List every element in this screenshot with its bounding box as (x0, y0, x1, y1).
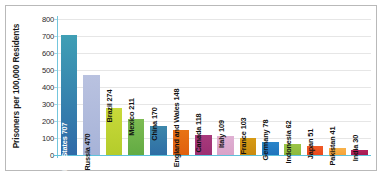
bar[interactable]: Canada 118 (195, 135, 212, 155)
bar-slot[interactable]: China 170 (147, 19, 169, 155)
plot-area: 8007006005004003002001000 United States … (58, 19, 371, 155)
bar-data-label: Germany 78 (261, 119, 270, 160)
bar-data-label: Canada 118 (194, 113, 203, 152)
bar-data-label: United States 707 (60, 122, 69, 178)
y-axis-tick-label: 0 (28, 151, 54, 160)
bar-slot[interactable]: Canada 118 (192, 19, 214, 155)
bar[interactable]: United States 707 (61, 35, 78, 155)
bar-slot[interactable]: Russia 470 (80, 19, 102, 155)
y-axis-tick-label: 600 (28, 49, 54, 58)
bar[interactable]: Japan 51 (307, 146, 324, 155)
bar-slot[interactable]: Pakistan 41 (326, 19, 348, 155)
bar-slot[interactable]: Japan 51 (304, 19, 326, 155)
bar-data-label: England and Wales 148 (172, 88, 181, 167)
bar[interactable]: Mexico 211 (128, 119, 145, 155)
y-axis-tick-label: 100 (28, 134, 54, 143)
y-axis-tick-label: 400 (28, 83, 54, 92)
y-axis-tick-label: 200 (28, 117, 54, 126)
bar[interactable]: Germany 78 (262, 142, 279, 155)
bar-series: United States 707Russia 470Brazil 274Mex… (58, 19, 371, 155)
bar-data-label: Italy 109 (217, 121, 226, 149)
bar-data-label: France 103 (239, 117, 248, 154)
y-axis-tick-label: 700 (28, 32, 54, 41)
bar-data-label: Pakistan 41 (328, 127, 337, 166)
bar-data-label: Brazil 274 (105, 90, 114, 123)
bar[interactable]: Brazil 274 (106, 108, 123, 155)
bar-data-label: China 170 (150, 107, 159, 141)
bar-slot[interactable]: United States 707 (58, 19, 80, 155)
bar[interactable]: Indonesia 62 (284, 144, 301, 155)
bar-data-label: Indonesia 62 (284, 121, 293, 164)
y-axis-tick-labels: 8007006005004003002001000 (28, 19, 54, 155)
bar-slot[interactable]: India 30 (348, 19, 370, 155)
bar-data-label: India 30 (351, 135, 360, 161)
bar[interactable]: Pakistan 41 (329, 148, 346, 155)
bar-slot[interactable]: Germany 78 (259, 19, 281, 155)
chart-container: Prisoners per 100,000 Residents 80070060… (5, 5, 377, 171)
y-axis-tick-label: 300 (28, 100, 54, 109)
bar-slot[interactable]: Italy 109 (214, 19, 236, 155)
bar-slot[interactable]: Mexico 211 (125, 19, 147, 155)
y-axis-tick-label: 800 (28, 15, 54, 24)
bar[interactable]: France 103 (240, 138, 257, 156)
y-axis-title-text: Prisoners per 100,000 Residents (11, 24, 21, 149)
bar-slot[interactable]: Brazil 274 (103, 19, 125, 155)
bar[interactable]: China 170 (150, 126, 167, 155)
y-axis-title: Prisoners per 100,000 Residents (8, 6, 24, 166)
bar-data-label: Russia 470 (83, 133, 92, 170)
bar[interactable]: Italy 109 (217, 136, 234, 155)
bar[interactable]: Russia 470 (83, 75, 100, 155)
bar[interactable]: India 30 (351, 150, 368, 155)
bar-data-label: Mexico 211 (127, 98, 136, 136)
y-axis-tick-label: 500 (28, 66, 54, 75)
bar-slot[interactable]: Indonesia 62 (281, 19, 303, 155)
bar-data-label: Japan 51 (306, 129, 315, 159)
bar[interactable]: England and Wales 148 (173, 130, 190, 155)
bar-slot[interactable]: England and Wales 148 (170, 19, 192, 155)
bar-slot[interactable]: France 103 (237, 19, 259, 155)
